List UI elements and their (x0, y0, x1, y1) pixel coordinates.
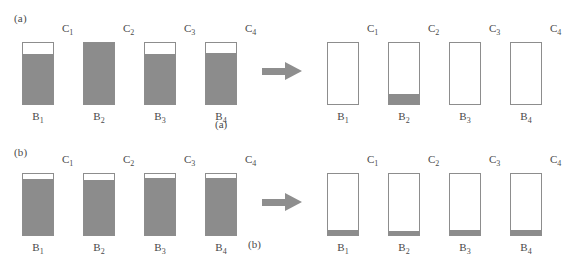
column-label-b3-before-a: B3 (144, 110, 176, 125)
connector-label-c2-after-b: C2 (428, 153, 439, 168)
panel-b-caption: (b) (248, 238, 261, 250)
column-b4-before-a (205, 42, 237, 105)
column-label-sub: 2 (101, 116, 105, 125)
connector-label-sub: 2 (435, 28, 439, 37)
connector-label-c2-before-b: C2 (123, 153, 134, 168)
connector-label-sub: 1 (69, 159, 73, 168)
panel-a-caption: (a) (215, 118, 227, 130)
column-b2-after-a (388, 42, 420, 105)
connector-label-c1-after-a: C1 (367, 22, 378, 37)
column-fill (84, 180, 114, 235)
column-fill (511, 230, 541, 235)
connector-label-sub: 2 (130, 28, 134, 37)
connector-label-sub: 3 (191, 28, 195, 37)
column-fill (23, 54, 53, 104)
column-label-sub: 4 (223, 247, 227, 256)
column-label-sub: 1 (40, 247, 44, 256)
column-label-b4-before-b: B4 (205, 241, 237, 256)
column-label-b4-after-a: B4 (510, 110, 542, 125)
connector-label-c2-before-a: C2 (123, 22, 134, 37)
column-b4-after-b (510, 173, 542, 236)
connector-label-sub: 2 (130, 159, 134, 168)
connector-label-sub: 3 (496, 28, 500, 37)
column-fill (389, 94, 419, 104)
column-label-b2-before-a: B2 (83, 110, 115, 125)
column-label-sub: 2 (406, 116, 410, 125)
column-b2-before-a (83, 42, 115, 105)
column-label-sub: 2 (101, 247, 105, 256)
column-label-sub: 3 (162, 247, 166, 256)
column-label-b1-before-b: B1 (22, 241, 54, 256)
arrow-head-icon (285, 62, 302, 80)
column-label-b3-after-a: B3 (449, 110, 481, 125)
column-label-sub: 3 (162, 116, 166, 125)
connector-label-sub: 3 (191, 159, 195, 168)
column-fill (206, 178, 236, 235)
connector-label-c3-before-b: C3 (184, 153, 195, 168)
arrow-head-icon (285, 193, 302, 211)
column-label-b1-before-a: B1 (22, 110, 54, 125)
column-fill (450, 230, 480, 235)
column-label-sub: 1 (345, 116, 349, 125)
column-b4-before-b (205, 173, 237, 236)
panel-a: (a) B1 C1 B2 C2 B3 C3 B4 C4 B1 (0, 0, 578, 133)
column-fill (23, 179, 53, 235)
connector-label-c4-before-b: C4 (245, 153, 256, 168)
connector-label-c1-before-a: C1 (62, 22, 73, 37)
column-b3-before-b (144, 173, 176, 236)
column-label-b2-after-b: B2 (388, 241, 420, 256)
column-fill (389, 231, 419, 235)
column-label-sub: 4 (528, 116, 532, 125)
panel-a-tag: (a) (14, 12, 27, 24)
column-label-sub: 2 (406, 247, 410, 256)
column-label-sub: 3 (467, 116, 471, 125)
column-b3-after-b (449, 173, 481, 236)
column-b1-before-b (22, 173, 54, 236)
column-b3-after-a (449, 42, 481, 105)
connector-label-sub: 4 (252, 28, 256, 37)
connector-label-c3-after-a: C3 (489, 22, 500, 37)
column-b3-before-a (144, 42, 176, 105)
panel-b-tag: (b) (14, 146, 27, 158)
connector-label-sub: 4 (557, 28, 561, 37)
column-fill (328, 230, 358, 235)
connector-label-sub: 4 (557, 159, 561, 168)
column-label-b2-before-b: B2 (83, 241, 115, 256)
transition-arrow-b (262, 193, 302, 211)
connector-label-c4-after-a: C4 (550, 22, 561, 37)
connector-label-sub: 1 (374, 159, 378, 168)
column-label-sub: 1 (40, 116, 44, 125)
connector-label-c1-before-b: C1 (62, 153, 73, 168)
connector-label-c3-after-b: C3 (489, 153, 500, 168)
column-b1-after-a (327, 42, 359, 105)
column-label-sub: 1 (345, 247, 349, 256)
connector-label-c4-after-b: C4 (550, 153, 561, 168)
column-label-b1-after-b: B1 (327, 241, 359, 256)
column-fill (145, 178, 175, 235)
column-b2-after-b (388, 173, 420, 236)
column-label-sub: 4 (528, 247, 532, 256)
column-label-b3-after-b: B3 (449, 241, 481, 256)
connector-label-c4-before-a: C4 (245, 22, 256, 37)
panel-b: (b) B1 C1 B2 C2 B3 C3 B4 C4 B1 (0, 133, 578, 265)
column-label-b3-before-b: B3 (144, 241, 176, 256)
connector-label-sub: 4 (252, 159, 256, 168)
transition-arrow-a (262, 62, 302, 80)
connector-label-sub: 2 (435, 159, 439, 168)
column-b1-after-b (327, 173, 359, 236)
connector-label-c3-before-a: C3 (184, 22, 195, 37)
column-label-b1-after-a: B1 (327, 110, 359, 125)
connector-label-sub: 1 (69, 28, 73, 37)
column-fill (84, 43, 114, 104)
connector-label-sub: 3 (496, 159, 500, 168)
column-label-b4-after-b: B4 (510, 241, 542, 256)
column-fill (145, 54, 175, 104)
column-label-sub: 3 (467, 247, 471, 256)
column-b2-before-b (83, 173, 115, 236)
connector-label-sub: 1 (374, 28, 378, 37)
column-fill (206, 53, 236, 104)
column-b4-after-a (510, 42, 542, 105)
column-label-b2-after-a: B2 (388, 110, 420, 125)
column-b1-before-a (22, 42, 54, 105)
connector-label-c2-after-a: C2 (428, 22, 439, 37)
